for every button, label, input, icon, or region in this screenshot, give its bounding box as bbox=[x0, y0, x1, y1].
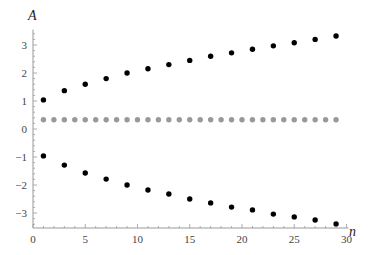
data-point-constant bbox=[177, 117, 182, 122]
data-point-constant bbox=[135, 117, 140, 122]
data-point-lower bbox=[312, 217, 317, 222]
data-point-upper bbox=[187, 58, 192, 63]
x-tick-label: 25 bbox=[289, 233, 301, 245]
data-point-constant bbox=[114, 117, 119, 122]
data-point-constant bbox=[260, 117, 265, 122]
data-point-lower bbox=[271, 211, 276, 216]
y-tick-label: −1 bbox=[15, 151, 27, 163]
data-point-constant bbox=[292, 117, 297, 122]
data-point-lower bbox=[145, 187, 150, 192]
data-point-constant bbox=[72, 117, 77, 122]
data-point-lower bbox=[208, 200, 213, 205]
data-point-constant bbox=[239, 117, 244, 122]
data-point-upper bbox=[124, 70, 129, 75]
data-point-upper bbox=[166, 62, 171, 67]
scatter-plot: 051015202530−3−2−10123 A n bbox=[0, 0, 371, 255]
data-point-upper bbox=[271, 43, 276, 48]
data-point-constant bbox=[302, 117, 307, 122]
data-point-upper bbox=[103, 76, 108, 81]
x-tick-label: 5 bbox=[83, 233, 89, 245]
y-tick-label: 2 bbox=[22, 67, 28, 79]
data-point-constant bbox=[250, 117, 255, 122]
data-point-constant bbox=[281, 117, 286, 122]
data-point-upper bbox=[312, 37, 317, 42]
data-point-upper bbox=[41, 97, 46, 102]
y-tick-label: −3 bbox=[15, 207, 27, 219]
data-point-upper bbox=[250, 47, 255, 52]
data-point-lower bbox=[333, 221, 338, 226]
data-point-upper bbox=[62, 88, 67, 93]
data-point-lower bbox=[62, 162, 67, 167]
data-point-constant bbox=[62, 117, 67, 122]
data-point-upper bbox=[145, 66, 150, 71]
y-tick-label: 0 bbox=[22, 123, 28, 135]
y-tick-label: 3 bbox=[22, 39, 28, 51]
data-point-constant bbox=[323, 117, 328, 122]
data-point-upper bbox=[292, 40, 297, 45]
data-point-constant bbox=[103, 117, 108, 122]
data-point-lower bbox=[229, 204, 234, 209]
data-point-lower bbox=[41, 153, 46, 158]
data-point-constant bbox=[312, 117, 317, 122]
data-point-constant bbox=[208, 117, 213, 122]
data-point-lower bbox=[250, 207, 255, 212]
data-point-constant bbox=[229, 117, 234, 122]
data-point-upper bbox=[208, 54, 213, 59]
data-point-constant bbox=[156, 117, 161, 122]
data-point-constant bbox=[93, 117, 98, 122]
data-point-constant bbox=[333, 117, 338, 122]
data-point-constant bbox=[198, 117, 203, 122]
data-point-constant bbox=[145, 117, 150, 122]
axes: 051015202530−3−2−10123 bbox=[15, 30, 352, 245]
data-point-constant bbox=[166, 117, 171, 122]
x-tick-label: 0 bbox=[30, 233, 36, 245]
data-point-constant bbox=[218, 117, 223, 122]
x-tick-label: 15 bbox=[184, 233, 196, 245]
data-point-lower bbox=[166, 191, 171, 196]
data-point-constant bbox=[83, 117, 88, 122]
data-point-constant bbox=[187, 117, 192, 122]
data-point-lower bbox=[103, 176, 108, 181]
data-point-constant bbox=[124, 117, 129, 122]
data-point-constant bbox=[51, 117, 56, 122]
x-tick-label: 20 bbox=[237, 233, 249, 245]
data-point-lower bbox=[83, 170, 88, 175]
data-point-upper bbox=[83, 82, 88, 87]
data-points bbox=[41, 33, 339, 226]
data-point-upper bbox=[229, 50, 234, 55]
data-point-lower bbox=[187, 196, 192, 201]
y-tick-label: −2 bbox=[15, 179, 27, 191]
x-axis-label: n bbox=[349, 224, 356, 239]
data-point-constant bbox=[41, 117, 46, 122]
data-point-lower bbox=[124, 182, 129, 187]
y-axis-label: A bbox=[27, 8, 37, 23]
data-point-upper bbox=[333, 33, 338, 38]
x-tick-label: 10 bbox=[132, 233, 144, 245]
data-point-lower bbox=[292, 214, 297, 219]
data-point-constant bbox=[271, 117, 276, 122]
y-tick-label: 1 bbox=[22, 95, 28, 107]
